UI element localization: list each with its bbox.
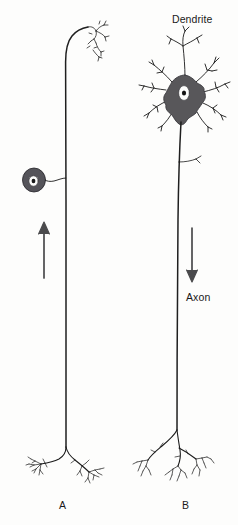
neuron-a-receptor-endings xyxy=(87,21,109,61)
dendrite-label: Dendrite xyxy=(172,13,213,25)
neuron-comparison-figure: Dendrite Axon A B xyxy=(0,0,238,525)
neuron-a-direction-arrow xyxy=(39,222,50,278)
neuron-b-nucleolus xyxy=(182,90,186,95)
neuron-a-axon xyxy=(66,27,88,447)
neuron-b-terminal-branches xyxy=(148,430,196,466)
neuron-b-terminal-arborization xyxy=(133,443,214,481)
neuron-a-group xyxy=(23,21,110,483)
neuron-b-group xyxy=(133,26,230,481)
neuron-a-label: A xyxy=(59,499,66,511)
neuron-a-terminal-branches xyxy=(41,447,89,472)
neuron-a-nucleolus xyxy=(32,179,36,183)
neuron-a-terminal-arborization xyxy=(26,457,104,483)
neuron-a-soma-stalk xyxy=(44,178,66,181)
neuron-b-direction-arrow xyxy=(187,228,198,282)
neuron-diagram-canvas xyxy=(0,0,238,525)
neuron-b-label: B xyxy=(182,499,189,511)
neuron-b-axon xyxy=(177,122,181,430)
neuron-b-axon-collateral xyxy=(179,156,201,163)
axon-label: Axon xyxy=(186,291,210,303)
